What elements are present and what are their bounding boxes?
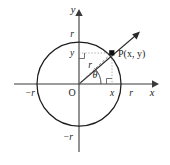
point-p-marker [109, 50, 114, 55]
right-angle-mark-y-icon [79, 53, 85, 59]
y-axis-label: y [70, 4, 76, 15]
terminal-ray-arrow-icon [132, 32, 140, 40]
y-axis-arrow-icon [75, 9, 82, 16]
circle-diagram-figure: y x O r −r −r r r y x θ P(x, y) [0, 0, 170, 165]
radius-label-top: r [70, 29, 74, 39]
coordinate-y-label: y [69, 48, 75, 58]
right-angle-mark-x-icon [107, 79, 113, 85]
coordinate-x-label: x [109, 88, 115, 98]
origin-label: O [68, 87, 75, 98]
angle-theta-label: θ [93, 69, 98, 80]
radius-label-left: −r [25, 88, 35, 98]
x-axis-label: x [149, 87, 155, 98]
axes-group [14, 9, 159, 152]
radius-label-right: r [129, 88, 133, 98]
point-p-label: P(x, y) [118, 48, 145, 60]
diagram-canvas: y x O r −r −r r r y x θ P(x, y) [0, 0, 170, 165]
radius-label-bottom: −r [63, 132, 73, 142]
